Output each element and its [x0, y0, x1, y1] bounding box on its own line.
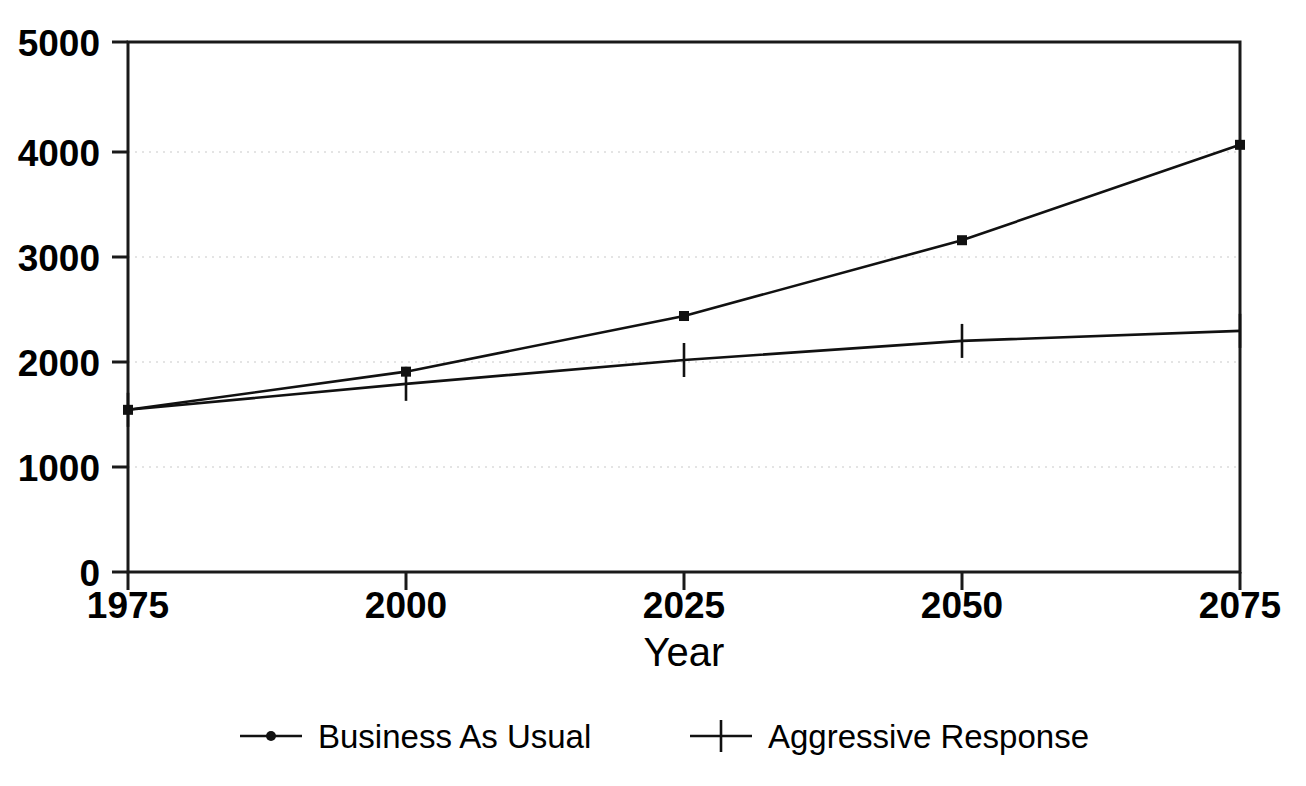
y-tick-label-5000: 5000	[18, 23, 100, 64]
chart-legend: Business As Usual Aggressive Response	[240, 718, 1089, 755]
dot-marker-icon	[679, 311, 689, 321]
dot-marker-icon	[266, 731, 276, 741]
y-tick-label-1000: 1000	[18, 448, 100, 489]
plot-area-background	[128, 42, 1240, 572]
x-tick-label-1975: 1975	[87, 585, 169, 626]
y-axis-tick-labels: 5000 4000 3000 2000 1000 0	[18, 23, 100, 594]
dot-marker-icon	[1235, 140, 1245, 150]
legend-label-aggressive-response: Aggressive Response	[768, 718, 1089, 755]
chart-figure: 5000 4000 3000 2000 1000 0 1975 2000 202…	[0, 0, 1306, 786]
y-tick-marks	[112, 42, 128, 572]
x-tick-label-2050: 2050	[921, 585, 1003, 626]
y-tick-label-4000: 4000	[18, 133, 100, 174]
x-tick-label-2075: 2075	[1199, 585, 1281, 626]
x-tick-label-2000: 2000	[365, 585, 447, 626]
y-tick-label-2000: 2000	[18, 343, 100, 384]
dot-marker-icon	[957, 235, 967, 245]
y-tick-label-3000: 3000	[18, 238, 100, 279]
legend-label-business-as-usual: Business As Usual	[318, 718, 591, 755]
x-tick-label-2025: 2025	[643, 585, 725, 626]
line-chart: 5000 4000 3000 2000 1000 0 1975 2000 202…	[0, 0, 1306, 786]
x-axis-tick-labels: 1975 2000 2025 2050 2075	[87, 585, 1281, 626]
x-axis-title: Year	[644, 630, 725, 674]
